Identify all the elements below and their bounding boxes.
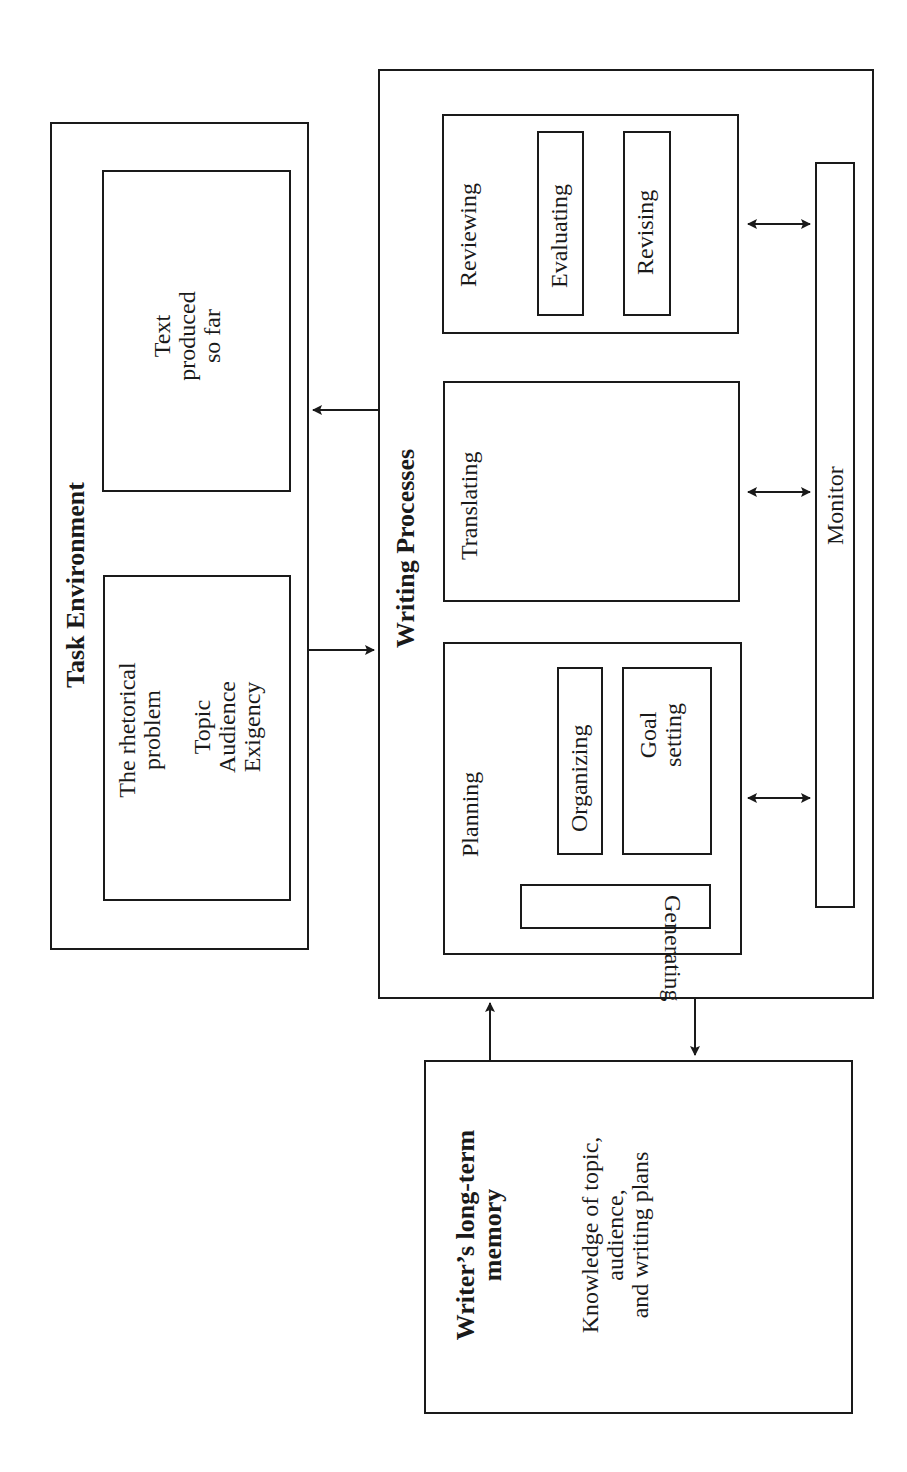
connector-arrows bbox=[0, 0, 907, 1472]
